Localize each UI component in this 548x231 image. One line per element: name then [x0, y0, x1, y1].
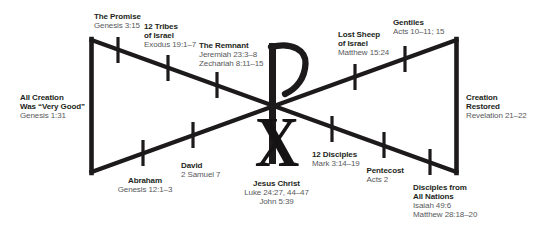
node-title: The Remnant [199, 41, 263, 50]
node-jesus-christ: Jesus Christ Luke 24:27, 44–47 John 5:39 [234, 179, 319, 206]
node-twelve-disciples: 12 Disciples Mark 3:14–19 [312, 150, 360, 168]
node-title: Jesus Christ [234, 179, 319, 188]
node-title: All Creation [20, 93, 85, 102]
node-the-promise: The Promise Genesis 3:15 [94, 12, 141, 30]
node-twelve-tribes: 12 Tribes of Israel Exodus 19:1–7 [144, 22, 196, 49]
node-disciples-all-nations: Disciples from All Nations Isaiah 49:6 M… [413, 183, 477, 219]
node-title: Gentiles [393, 18, 444, 27]
node-title: of Israel [144, 31, 196, 40]
node-reference: Genesis 3:15 [94, 21, 141, 30]
node-gentiles: Gentiles Acts 10–11; 15 [393, 18, 444, 36]
node-title: Creation [466, 93, 527, 102]
node-title: Disciples from [413, 183, 477, 192]
node-the-remnant: The Remnant Jeremiah 23:3–8 Zechariah 8:… [199, 41, 263, 68]
node-title: Abraham [113, 176, 177, 185]
node-abraham: Abraham Genesis 12:1–3 [113, 176, 177, 194]
node-title: Lost Sheep [338, 30, 389, 39]
node-title: Pentecost [367, 166, 404, 175]
node-title: Was “Very Good” [20, 102, 85, 111]
node-all-creation: All Creation Was “Very Good” Genesis 1:3… [20, 93, 85, 120]
node-reference: John 5:39 [234, 197, 319, 206]
node-reference: Acts 2 [367, 175, 404, 184]
node-reference: Matthew 15:24 [338, 48, 389, 57]
node-reference: Acts 10–11; 15 [393, 27, 444, 36]
node-reference: Genesis 1:31 [20, 111, 85, 120]
node-title: of Israel [338, 39, 389, 48]
node-title: 12 Tribes [144, 22, 196, 31]
node-david: David 2 Samuel 7 [181, 161, 220, 179]
node-title: All Nations [413, 192, 477, 201]
node-creation-restored: Creation Restored Revelation 21–22 [466, 93, 527, 120]
node-reference: Luke 24:27, 44–47 [234, 188, 319, 197]
node-reference: Jeremiah 23:3–8 [199, 50, 263, 59]
node-title: The Promise [94, 12, 141, 21]
node-reference: Zechariah 8:11–15 [199, 59, 263, 68]
rho-bowl [271, 45, 306, 94]
node-reference: Genesis 12:1–3 [113, 185, 177, 194]
node-title: Restored [466, 102, 527, 111]
node-reference: Matthew 28:18–20 [413, 210, 477, 219]
node-pentecost: Pentecost Acts 2 [367, 166, 404, 184]
bowtie-timeline-diagram: X All Creation Was “Very Good” Genesis 1… [0, 0, 548, 231]
node-title: David [181, 161, 220, 170]
node-title: 12 Disciples [312, 150, 360, 159]
node-reference: Revelation 21–22 [466, 111, 527, 120]
node-reference: Mark 3:14–19 [312, 159, 360, 168]
node-reference: Exodus 19:1–7 [144, 40, 196, 49]
node-reference: 2 Samuel 7 [181, 170, 220, 179]
node-lost-sheep: Lost Sheep of Israel Matthew 15:24 [338, 30, 389, 57]
node-reference: Isaiah 49:6 [413, 201, 477, 210]
chi-letter: X [255, 103, 300, 181]
